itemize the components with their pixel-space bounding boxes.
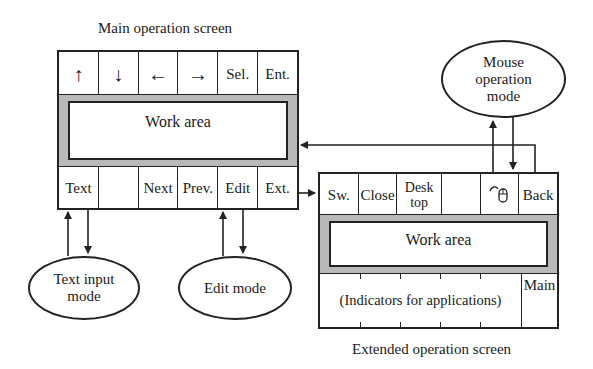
connector-arrows (0, 0, 593, 369)
